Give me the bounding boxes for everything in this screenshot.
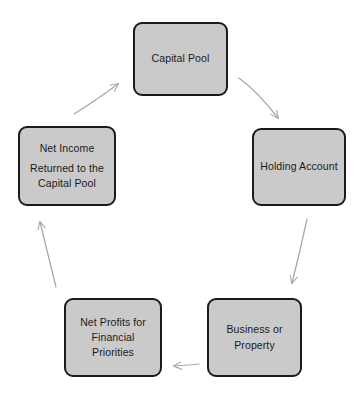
node-net-income-line-1: Net Income (40, 141, 95, 156)
arrow-net-income-to-capital-pool (74, 84, 118, 114)
node-net-profits: Net Profits for Financial Priorities (64, 298, 162, 377)
arrow-business-property-to-net-profits (174, 364, 199, 366)
node-business-property: Business or Property (207, 298, 302, 377)
node-holding-account-line-1: Holding Account (260, 159, 337, 174)
node-net-income-line-2: Returned to the (30, 161, 104, 176)
node-net-profits-line-1: Net Profits for (80, 315, 146, 330)
node-net-income: Net Income Returned to the Capital Pool (18, 126, 116, 206)
node-net-profits-line-3: Priorities (92, 345, 134, 360)
arrow-holding-account-to-business-property (292, 219, 307, 283)
node-net-profits-line-2: Financial (92, 330, 135, 345)
node-capital-pool: Capital Pool (133, 22, 228, 96)
arrow-capital-pool-to-holding-account (239, 78, 278, 118)
arrow-net-profits-to-net-income (40, 222, 56, 287)
node-business-property-line-2: Property (234, 338, 274, 353)
node-holding-account: Holding Account (252, 128, 346, 206)
node-business-property-line-1: Business or (227, 322, 283, 337)
node-net-income-line-3: Capital Pool (38, 176, 96, 191)
node-capital-pool-line-1: Capital Pool (152, 51, 210, 66)
diagram-canvas: Capital Pool Holding Account Business or… (0, 0, 361, 403)
